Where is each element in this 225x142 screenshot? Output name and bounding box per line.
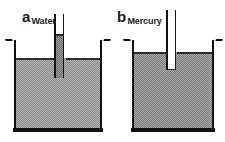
tube-meniscus-water <box>56 34 63 36</box>
tube-wall-left-mercury <box>166 10 168 70</box>
panel-mercury: bMercury <box>113 0 225 142</box>
tube-wall-right-mercury <box>175 10 177 70</box>
panel-a-title: Water <box>32 16 56 26</box>
tube-meniscus-mercury <box>168 69 175 71</box>
panel-b-caption: bMercury <box>117 9 162 25</box>
capillary-action-figure: aWater <box>0 0 225 142</box>
liquid-surface-right-mercury <box>177 52 212 54</box>
tube-bore-water <box>56 14 63 34</box>
tube-bore-mercury <box>168 10 175 70</box>
panel-a-caption: aWater <box>22 9 56 25</box>
beaker-wall-right-water <box>100 40 102 132</box>
liquid-surface-left-mercury <box>134 52 169 54</box>
beaker-floor-water <box>13 128 103 132</box>
panel-b-title: Mercury <box>127 16 161 26</box>
panel-a-letter: a <box>22 8 30 25</box>
liquid-surface-left-water <box>16 58 59 60</box>
tube-liquid-column-water <box>56 34 63 78</box>
liquid-surface-right-water <box>66 58 100 60</box>
beaker-wall-left-water <box>14 40 16 132</box>
panel-water: aWater <box>0 0 113 142</box>
tube-wall-left-water <box>54 14 56 78</box>
tube-wall-right-water <box>63 14 65 78</box>
panel-b-letter: b <box>117 8 126 25</box>
